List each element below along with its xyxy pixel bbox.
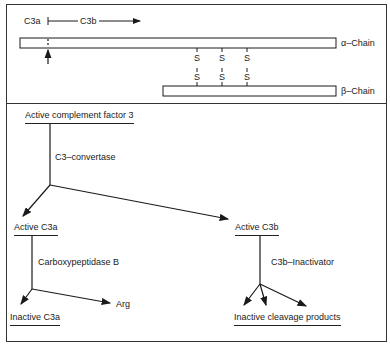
beta-chain-label: β–Chain	[341, 86, 375, 96]
enzyme-c3b-inactivator: C3b–Inactivator	[271, 257, 334, 267]
alpha-chain-label: α–Chain	[341, 38, 375, 48]
node-active-c3b: Active C3b	[235, 222, 279, 236]
enzyme-c3-convertase: C3–convertase	[55, 152, 116, 162]
node-inactive-cleavage-products: Inactive cleavage products	[234, 312, 341, 326]
enzyme-carboxypeptidase-b: Carboxypeptidase B	[38, 257, 119, 267]
disulfide-s: S	[219, 53, 225, 63]
alpha-chain-bar	[20, 38, 336, 48]
c3a-label: C3a	[24, 16, 41, 26]
disulfide-s: S	[219, 72, 225, 82]
node-inactive-c3a: Inactive C3a	[10, 312, 60, 326]
node-active-c3a: Active C3a	[14, 222, 58, 236]
disulfide-s: S	[194, 72, 200, 82]
disulfide-s: S	[244, 53, 250, 63]
beta-chain-bar	[163, 86, 336, 96]
root-node: Active complement factor 3	[25, 110, 134, 124]
disulfide-s: S	[244, 72, 250, 82]
disulfide-s: S	[194, 53, 200, 63]
c3b-label: C3b	[80, 16, 97, 26]
diagram-lines	[0, 0, 390, 346]
node-arg: Arg	[116, 299, 130, 309]
